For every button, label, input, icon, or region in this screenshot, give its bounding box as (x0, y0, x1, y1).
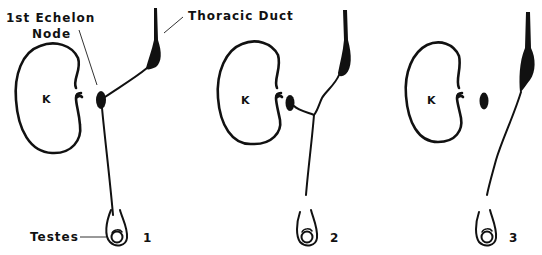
panel-number: 1 (143, 231, 151, 245)
first-echelon-node (286, 95, 295, 111)
testicular-lymphatic (102, 108, 113, 215)
thoracic-duct-cisterna (146, 8, 161, 69)
kidney-label: K (241, 94, 250, 107)
panel-number: 3 (509, 231, 517, 245)
leader-first-echelon (79, 30, 97, 85)
testis-inner (482, 232, 493, 243)
thoracic-duct-cisterna (520, 12, 535, 92)
testicular-lymphatic (306, 115, 314, 195)
panel-number: 2 (330, 231, 338, 245)
thoracic-duct-vessel (487, 92, 521, 195)
thoracic-duct-vessel (314, 75, 339, 115)
first-echelon-node (480, 93, 489, 110)
leader-thoracic-duct (164, 17, 183, 33)
thoracic-duct-vessel (105, 68, 147, 97)
label-thoracic-duct: Thoracic Duct (188, 9, 294, 23)
panel-2: K 2 (218, 10, 351, 245)
kidney-label: K (427, 94, 436, 107)
testis-outline (106, 210, 127, 245)
testis-outline (476, 210, 496, 245)
kidney-outline (218, 41, 282, 144)
node-efferent (294, 106, 314, 115)
lymphatic-drainage-diagram: 1st Echelon Node Thoracic Duct Testes K … (0, 0, 542, 255)
kidney-outline (406, 42, 463, 142)
first-echelon-node (96, 91, 106, 109)
panel-3: K 3 (406, 12, 535, 245)
testis-inner (302, 232, 313, 243)
panel-1: K 1 (16, 8, 161, 245)
kidney-label: K (42, 93, 51, 106)
testis-outline (297, 210, 317, 245)
label-testes: Testes (30, 230, 79, 244)
testis-inner (112, 232, 123, 243)
thoracic-duct-cisterna (338, 10, 351, 76)
label-first-echelon: 1st Echelon (6, 11, 95, 25)
label-node: Node (32, 27, 71, 41)
